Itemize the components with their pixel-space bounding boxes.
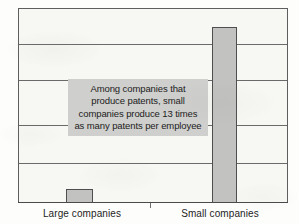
- x-axis-label-small-companies: Small companies: [160, 207, 280, 220]
- annotation-line-1: Among companies that: [71, 83, 205, 95]
- annotation-line-3: companies produce 13 times: [71, 108, 205, 120]
- annotation-line-4: as many patents per employee: [71, 120, 205, 132]
- annotation-callout: Among companies that produce patents, sm…: [68, 79, 208, 136]
- gridline-1: [19, 44, 287, 45]
- bar-large-companies[interactable]: [66, 189, 93, 203]
- bar-small-companies[interactable]: [212, 27, 237, 203]
- annotation-line-2: produce patents, small: [71, 95, 205, 107]
- bar-chart-figure: Among companies that produce patents, sm…: [0, 0, 299, 224]
- gridline-4: [19, 163, 287, 164]
- x-axis-line: [18, 202, 288, 203]
- x-axis-label-large-companies: Large companies: [22, 207, 142, 220]
- x-axis-tick-center: [150, 203, 151, 208]
